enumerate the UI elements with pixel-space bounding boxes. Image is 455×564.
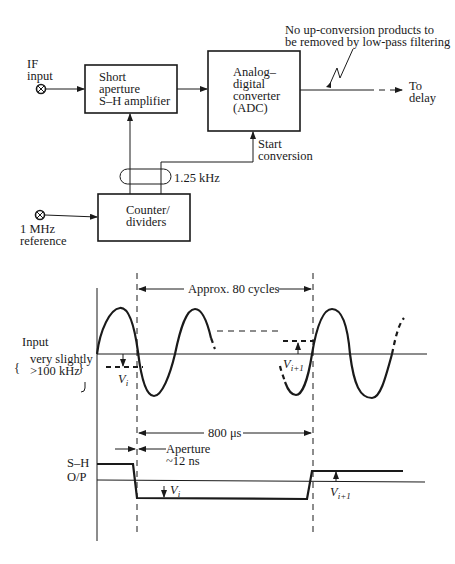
reference-to-counter-arrow (45, 215, 97, 217)
sh-zero-line (97, 480, 425, 482)
vi1-label: Vi+1 (283, 357, 304, 373)
adc-output: To delay (300, 79, 437, 105)
adc-line4: (ADC) (233, 101, 268, 115)
reference-terminal: 1 MHz reference (20, 211, 97, 249)
cycles-label: Approx. 80 cycles (188, 282, 279, 296)
input-waveform-break-1 (211, 338, 215, 349)
start-conversion-line2: conversion (258, 149, 314, 163)
sampling-adc-diagram: IF input Short aperture S–H amplifier An… (0, 0, 455, 564)
sh-vi1-label: Vi+1 (330, 485, 351, 501)
input-waveform (97, 308, 211, 396)
clock-rate-label: 1.25 kHz (174, 171, 220, 185)
right-brace-icon: } (78, 361, 84, 375)
lightning-arrow-icon (329, 49, 353, 86)
if-input-terminal: IF input (27, 57, 84, 94)
sh-output-line1: S–H (67, 456, 89, 470)
input-label: Input (22, 335, 49, 349)
vi-label: Vi (118, 372, 129, 388)
block-diagram: IF input Short aperture S–H amplifier An… (20, 23, 451, 248)
input-waveform-break-3 (392, 318, 404, 354)
filtering-note: No up-conversion products to be removed … (285, 23, 451, 88)
sample-vi-marker: Vi (106, 354, 143, 388)
left-brace-icon: { (14, 361, 20, 375)
input-freq-line2: >100 kHz (30, 364, 80, 378)
if-input-label-line2: input (27, 69, 53, 83)
sh-amplifier-line3: S–H amplifier (99, 94, 171, 108)
reference-line2: reference (20, 234, 67, 248)
timing-diagram: Approx. 80 cycles Input { very slightly … (14, 273, 427, 541)
period-label: 800 μs (208, 426, 242, 440)
note-line2: be removed by low-pass filtering (285, 35, 451, 49)
output-label-line2: delay (409, 91, 437, 105)
sh-vi-label: Vi (170, 483, 181, 499)
counter-dividers-block: Counter/ dividers (98, 194, 190, 241)
aperture-line2: ~12 ns (166, 454, 200, 468)
reference-terminal-icon (36, 211, 45, 220)
clock-bundle-icon (120, 169, 171, 184)
cycles-interval: Approx. 80 cycles (139, 282, 311, 296)
sh-amplifier-block: Short aperture S–H amplifier (85, 65, 177, 113)
adc-block: Analog– digital converter (ADC) (208, 51, 300, 131)
period-interval: 800 μs (139, 426, 311, 440)
counter-line2: dividers (126, 215, 166, 229)
sh-output-line2: O/P (67, 470, 87, 484)
input-terminal-icon (37, 85, 46, 94)
